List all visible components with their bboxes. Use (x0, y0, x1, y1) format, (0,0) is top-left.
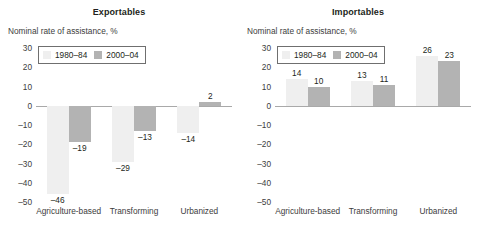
y-axis-tick-label: –50 (10, 197, 32, 207)
legend-item[interactable]: 2000–04 (333, 50, 377, 60)
bar-value-label: 2 (195, 91, 225, 101)
bar-value-label: –14 (173, 134, 203, 144)
y-axis-tick-label: –50 (249, 197, 271, 207)
bar-groups: –46–19Agriculture-based–29–13Transformin… (36, 48, 232, 202)
plot-area: 3020100–10–20–30–40–501410Agriculture-ba… (275, 48, 471, 202)
bar-value-label: –13 (130, 132, 160, 142)
bar-group: 2623Urbanized (406, 48, 471, 202)
bar (199, 102, 221, 106)
legend-swatch-icon (43, 51, 51, 59)
legend-label: 2000–04 (106, 50, 138, 60)
y-axis-tick-label: –10 (249, 120, 271, 130)
bar (416, 56, 438, 106)
x-axis-category-label: Agriculture-based (36, 206, 101, 216)
y-axis-tick-label: 0 (249, 101, 271, 111)
y-axis-tick-label: –40 (10, 178, 32, 188)
bar-value-label: 11 (369, 74, 399, 84)
bar-value-label: –29 (108, 163, 138, 173)
chart-figure: Exportables Nominal rate of assistance, … (0, 0, 477, 229)
bar (177, 106, 199, 133)
legend-label: 1980–84 (294, 50, 326, 60)
bar (308, 87, 330, 106)
legend-item[interactable]: 1980–84 (282, 50, 326, 60)
y-axis-tick-label: 30 (10, 43, 32, 53)
legend-swatch-icon (94, 51, 102, 59)
y-axis-tick-label: –10 (10, 120, 32, 130)
bar (69, 106, 91, 143)
y-axis-tick-label: 30 (249, 43, 271, 53)
bar-group: –142Urbanized (167, 48, 232, 202)
legend-item[interactable]: 1980–84 (43, 50, 87, 60)
bar-value-label: –46 (43, 195, 73, 205)
legend-item[interactable]: 2000–04 (94, 50, 138, 60)
bar-value-label: 10 (304, 76, 334, 86)
y-axis-tick-label: –20 (249, 139, 271, 149)
legend-swatch-icon (333, 51, 341, 59)
x-axis-category-label: Transforming (340, 206, 405, 216)
y-axis-tick-label: 10 (10, 82, 32, 92)
y-axis-tick-label: 0 (10, 101, 32, 111)
panel-title: Exportables (0, 7, 238, 17)
y-axis-title: Nominal rate of assistance, % (8, 26, 118, 36)
bar (134, 106, 156, 131)
bar-groups: 1410Agriculture-based1311Transforming262… (275, 48, 471, 202)
chart-panel-importables: Importables Nominal rate of assistance, … (239, 0, 477, 229)
bar-value-label: 23 (434, 50, 464, 60)
bar-group: –46–19Agriculture-based (36, 48, 101, 202)
x-axis-category-label: Urbanized (406, 206, 471, 216)
bar-group: 1311Transforming (340, 48, 405, 202)
y-axis-tick-label: –30 (10, 159, 32, 169)
bar-value-label: –19 (65, 143, 95, 153)
chart-panel-exportables: Exportables Nominal rate of assistance, … (0, 0, 238, 229)
chart-legend: 1980–842000–04 (277, 46, 385, 64)
bar (373, 85, 395, 106)
y-axis-tick-label: 20 (10, 62, 32, 72)
legend-label: 1980–84 (55, 50, 87, 60)
y-axis-tick-label: –20 (10, 139, 32, 149)
x-axis-category-label: Transforming (101, 206, 166, 216)
legend-label: 2000–04 (345, 50, 377, 60)
plot-area: 3020100–10–20–30–40–50–46–19Agriculture-… (36, 48, 232, 202)
bar-group: –29–13Transforming (101, 48, 166, 202)
x-axis-category-label: Urbanized (167, 206, 232, 216)
y-axis-tick-label: 20 (249, 62, 271, 72)
y-axis-tick-label: 10 (249, 82, 271, 92)
y-axis-tick-label: –30 (249, 159, 271, 169)
legend-swatch-icon (282, 51, 290, 59)
y-axis-tick-label: –40 (249, 178, 271, 188)
bar (438, 61, 460, 105)
bar-group: 1410Agriculture-based (275, 48, 340, 202)
x-axis-category-label: Agriculture-based (275, 206, 340, 216)
bar (351, 81, 373, 106)
chart-legend: 1980–842000–04 (38, 46, 146, 64)
panel-title: Importables (239, 7, 477, 17)
y-axis-title: Nominal rate of assistance, % (247, 26, 357, 36)
